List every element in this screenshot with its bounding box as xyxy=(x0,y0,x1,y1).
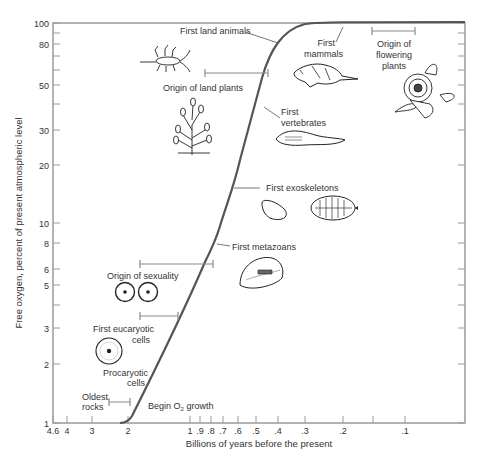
y-axis: 1008050302010865321 xyxy=(34,19,465,429)
oxygen-chart: 1008050302010865321 4.64321.9.8.7.6.5.4.… xyxy=(0,0,479,462)
y-tick-label: 20 xyxy=(39,161,49,171)
x-tick-label: 1 xyxy=(187,426,192,436)
flowering-plants-bracket xyxy=(372,27,415,35)
x-tick-label: 3 xyxy=(89,426,94,436)
y-tick-label: 8 xyxy=(44,239,49,249)
sexual-cells-icon xyxy=(116,283,158,302)
vertebrate-icon xyxy=(276,131,345,145)
vertebrates-leader xyxy=(264,107,280,118)
x-axis-label: Billions of years before the present xyxy=(186,438,333,449)
y-tick-label: 10 xyxy=(39,219,49,229)
label-first-vertebrates-2: vertebrates xyxy=(281,118,327,128)
label-first-vertebrates-1: First xyxy=(281,107,299,117)
label-origin-flowering-2: flowering xyxy=(376,50,412,60)
x-tick-label: .5 xyxy=(252,426,260,436)
label-procaryotic-1: Procaryotic xyxy=(103,368,149,378)
y-tick-label: 100 xyxy=(34,19,49,29)
label-procaryotic-2: cells xyxy=(127,378,146,388)
label-first-metazoans: First metazoans xyxy=(232,242,297,252)
x-tick-label: .7 xyxy=(219,426,227,436)
y-tick-label: 2 xyxy=(44,360,49,370)
land-animal-icon xyxy=(140,45,190,72)
label-first-eucaryotic-1: First eucaryotic xyxy=(93,324,155,334)
y-tick-label: 6 xyxy=(44,265,49,275)
label-first-exoskeletons: First exoskeletons xyxy=(266,183,339,193)
eucaryotic-bracket xyxy=(140,312,178,320)
label-oldest-rocks-2: rocks xyxy=(82,402,104,412)
mammal-icon xyxy=(294,64,358,87)
y-tick-label: 3 xyxy=(44,324,49,334)
x-tick-label: .8 xyxy=(207,426,215,436)
shell-icon xyxy=(262,200,286,219)
x-axis: 4.64321.9.8.7.6.5.4.3.2.1 xyxy=(47,416,409,436)
land-plant-icon xyxy=(174,98,212,155)
x-tick-label: 2 xyxy=(125,426,130,436)
range-brackets xyxy=(109,27,415,406)
label-first-mammals: First xyxy=(318,38,336,48)
annotations: First land animals First mammals Origin … xyxy=(82,26,412,412)
trilobite-icon xyxy=(311,196,358,220)
y-tick-label: 30 xyxy=(39,126,49,136)
mammals-leader xyxy=(336,27,343,42)
eucaryotic-cell-icon xyxy=(96,338,122,364)
y-axis-label: Free oxygen, percent of present atmosphe… xyxy=(13,117,24,328)
x-tick-label: .9 xyxy=(196,426,204,436)
x-tick-label: 4.6 xyxy=(47,426,60,436)
label-begin-o2: Begin O2 growth xyxy=(148,401,213,412)
label-origin-flowering-1: Origin of xyxy=(377,39,412,49)
label-origin-flowering-3: plants xyxy=(382,61,407,71)
flower-icon xyxy=(395,64,454,118)
land-plants-bracket xyxy=(205,69,268,77)
x-tick-label: .1 xyxy=(401,426,409,436)
metazoan-icon xyxy=(240,257,283,288)
oldest-rocks-bracket xyxy=(109,398,130,406)
label-first-eucaryotic-2: cells xyxy=(132,335,151,345)
label-origin-land-plants: Origin of land plants xyxy=(163,83,244,93)
label-oldest-rocks-1: Oldest xyxy=(82,392,109,402)
x-tick-label: .2 xyxy=(339,426,347,436)
x-tick-label: 4 xyxy=(64,426,69,436)
label-first-land-animals: First land animals xyxy=(180,26,251,36)
x-tick-label: .3 xyxy=(301,426,309,436)
x-tick-label: .4 xyxy=(274,426,282,436)
y-tick-label: 5 xyxy=(44,281,49,291)
y-tick-label: 80 xyxy=(39,40,49,50)
label-mammals: mammals xyxy=(304,49,344,59)
metazoans-leader xyxy=(217,244,230,246)
x-tick-label: .6 xyxy=(234,426,242,436)
y-tick-label: 50 xyxy=(39,81,49,91)
label-origin-sexuality: Origin of sexuality xyxy=(107,271,179,281)
